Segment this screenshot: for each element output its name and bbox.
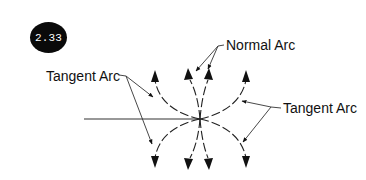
tangent-arc-lower-right	[200, 119, 246, 158]
arrowhead-up-icon	[242, 70, 250, 82]
leader-tangent-right-upper	[242, 101, 281, 108]
leader-normal-a	[196, 45, 224, 71]
normal-arc-a-upper	[190, 80, 200, 119]
tangent-arc-upper-right	[200, 80, 246, 119]
leader-tangent-right-lower	[243, 107, 271, 142]
leader-tangent-left-upper	[119, 75, 153, 97]
arrowhead-up-icon	[204, 68, 213, 80]
arrowhead-up-icon	[151, 70, 159, 82]
arrowhead-up-icon	[184, 68, 193, 80]
arc-diagram	[0, 0, 366, 180]
tangent-arc-lower-left	[155, 119, 200, 158]
arrowhead-down-icon	[151, 156, 159, 168]
arrowhead-down-icon	[204, 158, 213, 170]
normal-arc-b-lower	[200, 119, 208, 158]
arrowhead-down-icon	[184, 158, 193, 170]
normal-arc-a-lower	[190, 119, 200, 158]
normal-arc-b-upper	[200, 80, 208, 119]
leader-normal-b	[208, 46, 218, 69]
arrowhead-down-icon	[242, 156, 250, 168]
tangent-arc-upper-left	[155, 80, 200, 119]
